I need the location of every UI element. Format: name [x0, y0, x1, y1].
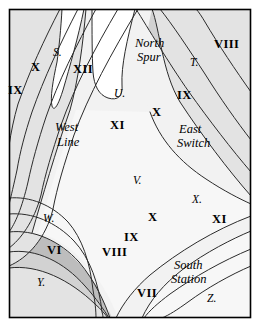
place-label-east-switch-1: East	[179, 123, 201, 136]
place-label-west-line-2: Line	[57, 136, 79, 149]
contour-label-x-left: X	[31, 61, 40, 74]
place-label-south-station-2: Station	[171, 273, 206, 286]
place-label-west-line-1: West	[55, 121, 78, 134]
point-label-pt-s: S.	[53, 47, 62, 59]
contour-label-ix-upper: IX	[177, 89, 192, 102]
contour-label-xi-mid: XI	[110, 119, 125, 132]
contour-label-vii-low: VII	[137, 287, 157, 300]
contour-label-xii-top: XII	[73, 63, 93, 76]
contour-label-x-upper: X	[152, 106, 161, 119]
place-label-south-station-1: South	[174, 259, 202, 272]
point-label-pt-x: X.	[192, 194, 202, 206]
point-label-pt-u: U.	[114, 88, 125, 100]
contour-label-xi-right: XI	[212, 213, 227, 226]
contour-label-viii-top: VIII	[214, 38, 239, 51]
point-label-pt-z: Z.	[207, 293, 216, 305]
contour-label-x-lower: X	[148, 211, 157, 224]
point-label-pt-v: V.	[133, 175, 141, 187]
contour-map-figure: IXXXIIXIXIXVIIIXIXVIIIVIIVIXINorthSpurWe…	[0, 0, 260, 327]
point-label-pt-t: T.	[190, 57, 198, 69]
contour-label-vi-left: VI	[47, 244, 62, 257]
contour-label-ix-lower: IX	[124, 231, 139, 244]
contour-label-ix-left: IX	[8, 84, 23, 97]
place-label-north-spur-2: Spur	[137, 51, 161, 64]
point-label-pt-w: W.	[43, 213, 54, 225]
point-label-pt-y: Y.	[37, 277, 45, 289]
contour-label-viii-low: VIII	[102, 246, 127, 259]
place-label-north-spur-1: North	[135, 37, 164, 50]
place-label-east-switch-2: Switch	[177, 137, 210, 150]
